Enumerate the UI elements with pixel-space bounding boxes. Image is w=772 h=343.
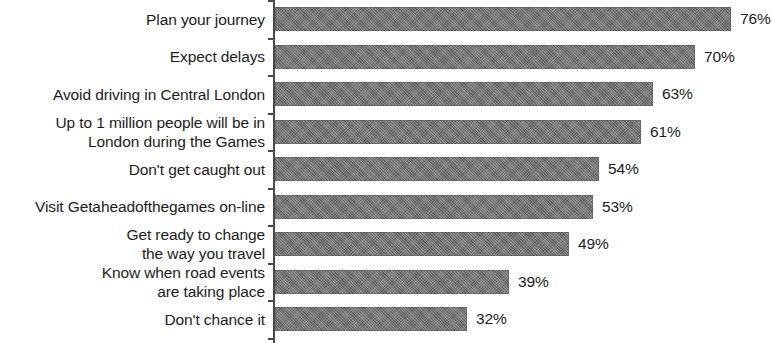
category-label: Up to 1 million people will be inLondon … [0,113,265,151]
plot-area: Plan your journey76%Expect delays70%Avoi… [0,0,772,343]
bar-row: Expect delays70% [0,38,772,76]
bar-row: Don't chance it32% [0,300,772,338]
category-label-line: Avoid driving in Central London [53,85,265,104]
bar-value-label: 70% [704,49,735,65]
bar [275,270,509,294]
category-label-line: Visit Getaheadofthegames on-line [35,197,265,216]
bar-row: Avoid driving in Central London63% [0,75,772,113]
bar-and-value: 53% [275,188,633,226]
category-label-line: Know when road events [102,263,265,282]
bar-and-value: 76% [275,0,771,38]
bar [275,232,569,256]
bar-value-label: 54% [608,161,639,177]
bar [275,7,731,31]
bar [275,195,593,219]
bar-value-label: 32% [476,311,507,327]
bar [275,82,653,106]
bar-row: Don't get caught out54% [0,150,772,188]
category-label: Don't get caught out [0,150,265,188]
bar-value-label: 61% [650,124,681,140]
bar-row: Up to 1 million people will be inLondon … [0,113,772,151]
category-label-line: the way you travel [142,244,265,263]
bar-and-value: 49% [275,225,609,263]
category-label: Don't chance it [0,300,265,338]
category-label-line: London during the Games [88,132,265,151]
bar-value-label: 76% [740,11,771,27]
bar-row: Visit Getaheadofthegames on-line53% [0,188,772,226]
category-label: Visit Getaheadofthegames on-line [0,188,265,226]
category-label-line: are taking place [157,282,265,301]
bar-chart: Plan your journey76%Expect delays70%Avoi… [0,0,772,343]
bar [275,120,641,144]
bar-and-value: 70% [275,38,735,76]
bar-and-value: 54% [275,150,639,188]
category-label-line: Get ready to change [126,225,265,244]
bar-value-label: 39% [518,274,549,290]
bar-and-value: 63% [275,75,693,113]
bar-and-value: 61% [275,113,681,151]
category-label-line: Don't get caught out [129,160,265,179]
category-label: Avoid driving in Central London [0,75,265,113]
bar [275,45,695,69]
category-label-line: Plan your journey [146,10,265,29]
category-label: Expect delays [0,38,265,76]
bar-row: Get ready to changethe way you travel49% [0,225,772,263]
bar-row: Plan your journey76% [0,0,772,38]
category-label-line: Don't chance it [164,310,265,329]
bar-and-value: 32% [275,300,507,338]
bar-value-label: 63% [662,86,693,102]
category-label-line: Up to 1 million people will be in [55,113,265,132]
category-label: Get ready to changethe way you travel [0,225,265,263]
bar-and-value: 39% [275,263,549,301]
category-label-line: Expect delays [170,47,265,66]
bar-value-label: 53% [602,199,633,215]
bar-row: Know when road eventsare taking place39% [0,263,772,301]
category-label: Plan your journey [0,0,265,38]
category-label: Know when road eventsare taking place [0,263,265,301]
bar [275,307,467,331]
bar [275,157,599,181]
bar-value-label: 49% [578,236,609,252]
